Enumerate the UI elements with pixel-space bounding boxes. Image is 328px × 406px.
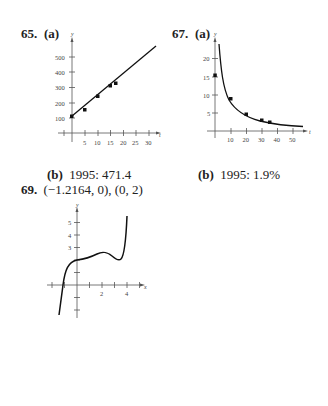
problem-67-answer-b: 1995: 1.9% bbox=[220, 167, 280, 182]
svg-text:5: 5 bbox=[207, 110, 210, 117]
chart-65a bbox=[58, 37, 161, 142]
svg-text:5: 5 bbox=[83, 139, 86, 146]
chart-65a-fit-line bbox=[72, 46, 156, 116]
svg-text:50: 50 bbox=[289, 136, 296, 143]
svg-text:4: 4 bbox=[125, 290, 129, 297]
svg-text:10: 10 bbox=[227, 136, 234, 143]
chart-65a-labels: y t 100 200 300 400 500 5 10 15 20 25 30 bbox=[55, 31, 161, 146]
problem-69: 69. (−1.2164, 0), (0, 2) bbox=[21, 183, 143, 196]
svg-text:400: 400 bbox=[55, 69, 65, 76]
svg-text:y: y bbox=[213, 31, 217, 37]
svg-text:10: 10 bbox=[203, 92, 210, 99]
problem-69-answer: (−1.2164, 0), (0, 2) bbox=[44, 182, 143, 197]
problem-65-part-b: (b) 1995: 471.4 bbox=[47, 168, 131, 181]
chart-67a bbox=[207, 37, 308, 138]
svg-text:100: 100 bbox=[55, 115, 65, 122]
svg-text:30: 30 bbox=[145, 139, 152, 146]
svg-text:15: 15 bbox=[107, 139, 114, 146]
svg-text:x: x bbox=[143, 284, 147, 290]
svg-text:15: 15 bbox=[203, 74, 210, 81]
svg-text:3: 3 bbox=[68, 244, 71, 251]
svg-text:20: 20 bbox=[203, 55, 210, 62]
problem-67-part-b-label: (b) bbox=[198, 167, 214, 182]
svg-text:5: 5 bbox=[68, 219, 71, 226]
svg-text:y: y bbox=[70, 31, 74, 37]
svg-text:t: t bbox=[159, 132, 161, 138]
svg-text:25: 25 bbox=[132, 139, 139, 146]
figure-canvas: y t 100 200 300 400 500 5 10 15 20 25 30 bbox=[0, 0, 328, 406]
problem-69-number: 69. bbox=[21, 182, 37, 197]
svg-text:4: 4 bbox=[68, 232, 72, 239]
svg-text:30: 30 bbox=[258, 136, 265, 143]
problem-65-part-b-label: (b) bbox=[47, 167, 63, 182]
svg-text:500: 500 bbox=[55, 54, 65, 61]
svg-text:20: 20 bbox=[120, 139, 127, 146]
problem-67-part-b: (b) 1995: 1.9% bbox=[198, 168, 280, 181]
svg-text:40: 40 bbox=[274, 136, 281, 143]
svg-text:2: 2 bbox=[100, 290, 103, 297]
svg-text:t: t bbox=[309, 129, 311, 135]
problem-65-answer-b: 1995: 471.4 bbox=[69, 167, 131, 182]
svg-text:300: 300 bbox=[55, 84, 65, 91]
svg-text:20: 20 bbox=[243, 136, 250, 143]
svg-text:y: y bbox=[75, 202, 79, 208]
chart-67a-fit-curve bbox=[219, 44, 303, 127]
chart-69 bbox=[47, 207, 145, 318]
chart-67a-points bbox=[213, 74, 271, 125]
chart-69-labels: y x 5 4 3 2 4 bbox=[68, 202, 147, 297]
svg-text:10: 10 bbox=[94, 139, 101, 146]
svg-text:200: 200 bbox=[55, 100, 65, 107]
